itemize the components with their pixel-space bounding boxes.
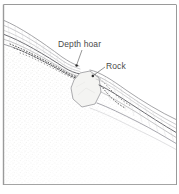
snowpack-ground-body (3, 38, 177, 185)
depth-hoar-leader-line (77, 50, 82, 64)
rock-label: Rock (106, 62, 126, 71)
depth-hoar-label: Depth hoar (58, 40, 101, 49)
rock-leader-marker (92, 75, 95, 78)
snowpack-cross-section-figure: Depth hoar Rock (0, 0, 179, 194)
diagram-canvas (0, 0, 179, 194)
depth-hoar-leader-marker (75, 64, 78, 67)
